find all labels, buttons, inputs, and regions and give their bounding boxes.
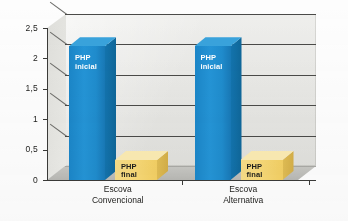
bar-value-label: PHPinicial (201, 54, 223, 71)
x-axis-category-label-line: Escova (188, 184, 298, 195)
y-axis-tick-label: 1 (12, 114, 38, 124)
gridline-side-segment (50, 2, 67, 15)
y-axis-tick-label: 0 (12, 175, 38, 185)
bar-value-label-line: inicial (75, 63, 97, 72)
bar-value-label: PHPfinal (247, 163, 263, 180)
y-axis-tick-label: 2,5 (12, 23, 38, 33)
y-axis-tick-label: 0,5 (12, 144, 38, 154)
y-axis-tick (43, 58, 48, 59)
y-axis-tick (43, 180, 48, 181)
y-axis-tick (43, 89, 48, 90)
y-axis-line (47, 28, 48, 180)
bar-value-label: PHPfinal (121, 163, 137, 180)
y-axis-tick-label: 2 (12, 53, 38, 63)
y-axis-tick-label: 1,5 (12, 83, 38, 93)
bar-value-label: PHPinicial (75, 54, 97, 71)
x-axis-category-label: EscovaAlternativa (188, 184, 298, 206)
bar-value-label-line: final (247, 171, 263, 180)
x-axis-category-label: EscovaConvencional (63, 184, 173, 206)
x-axis-category-label-line: Convencional (63, 195, 173, 206)
x-axis-category-label-line: Escova (63, 184, 173, 195)
bar-value-label-line: inicial (201, 63, 223, 72)
x-axis-tick-end (309, 180, 310, 185)
x-axis-tick (182, 180, 183, 185)
plot-left-wall (47, 14, 66, 180)
y-axis-tick (43, 28, 48, 29)
y-axis-tick (43, 119, 48, 120)
x-axis-category-label-line: Alternativa (188, 195, 298, 206)
bar-chart: 2,521,510,50 PHPinicialPHPfinalPHPinicia… (0, 0, 348, 221)
y-axis-tick (43, 150, 48, 151)
bar-value-label-line: final (121, 171, 137, 180)
